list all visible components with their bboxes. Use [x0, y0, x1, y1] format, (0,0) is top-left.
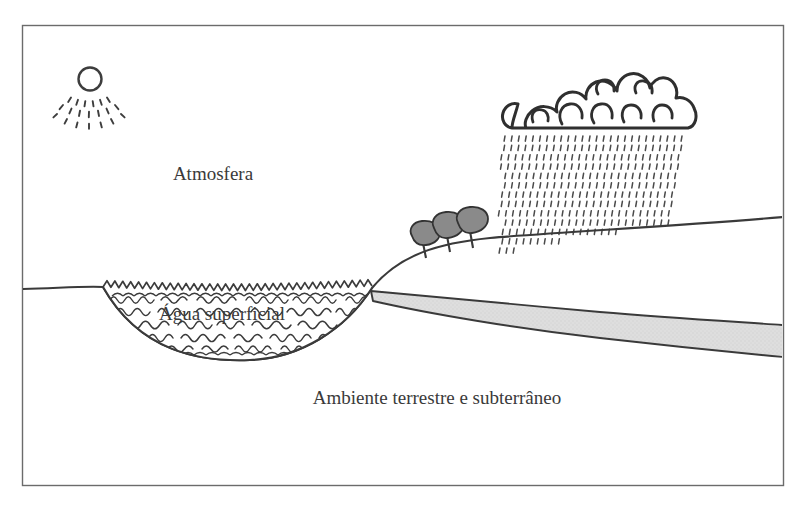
rain-dash — [589, 183, 590, 188]
rain-dash — [629, 201, 630, 206]
label-atmosphere: Atmosfera — [173, 163, 254, 184]
rain-dash — [562, 220, 563, 225]
rain-dash — [583, 220, 584, 225]
rain-dash — [668, 220, 669, 225]
rain-dash — [569, 211, 570, 216]
rain-dash — [540, 173, 541, 178]
rain-dash — [675, 173, 676, 178]
rain-dash — [529, 155, 530, 160]
rain-dash — [654, 220, 655, 225]
rain-dash — [520, 211, 521, 216]
rain-dash — [596, 145, 597, 150]
rain-dash — [513, 211, 514, 216]
rain-dash — [590, 220, 591, 225]
rain-dash — [533, 183, 534, 188]
rain-dash — [551, 239, 552, 244]
rain-dash — [569, 173, 570, 178]
rain-dash — [522, 164, 523, 169]
rain-dash — [519, 173, 520, 178]
rain-dash — [668, 211, 669, 216]
rain-dash — [531, 229, 532, 234]
rain-dash — [667, 183, 668, 188]
rain-dash — [501, 164, 502, 169]
rain-dash — [569, 220, 570, 225]
rain-dash — [587, 192, 588, 197]
rain-dash — [543, 164, 544, 169]
rain-dash — [670, 164, 671, 169]
rain-dash — [568, 183, 569, 188]
rain-dash — [541, 220, 542, 225]
rain-dash — [661, 211, 662, 216]
rain-dash — [624, 145, 625, 150]
rain-dash — [607, 164, 608, 169]
rain-dash — [515, 164, 516, 169]
rain-dash — [607, 155, 608, 160]
rain-dash — [506, 211, 507, 216]
rain-dash — [540, 183, 541, 188]
rain-dash — [506, 248, 507, 253]
rain-dash — [660, 136, 661, 141]
rain-dash — [526, 220, 527, 225]
rain-dash — [605, 211, 606, 216]
rain-dash — [550, 164, 551, 169]
rain-dash — [681, 145, 682, 150]
rain-dash — [508, 201, 509, 206]
rain-dash — [530, 201, 531, 206]
rain-dash — [526, 183, 527, 188]
rain-dash — [607, 201, 608, 206]
rain-dash — [603, 136, 604, 141]
rain-dash — [661, 220, 662, 225]
rain-dash — [663, 164, 664, 169]
rain-dash — [519, 183, 520, 188]
rain-dash — [643, 192, 644, 197]
rain-dash — [674, 183, 675, 188]
rain-dash — [533, 173, 534, 178]
rain-dash — [590, 211, 591, 216]
rain-dash — [501, 155, 502, 160]
rain-dash — [516, 239, 517, 244]
rain-dash — [572, 201, 573, 206]
rain-dash — [586, 155, 587, 160]
rain-dash — [540, 136, 541, 141]
rain-dash — [664, 201, 665, 206]
rain-dash — [643, 201, 644, 206]
rain-dash — [652, 145, 653, 150]
rain-dash — [678, 155, 679, 160]
rain-dash — [622, 201, 623, 206]
rain-dash — [509, 229, 510, 234]
rain-dash — [533, 220, 534, 225]
rain-dash — [604, 220, 605, 225]
rain-dash — [525, 136, 526, 141]
rain-dash — [575, 183, 576, 188]
rain-dash — [657, 201, 658, 206]
rain-dash — [625, 183, 626, 188]
rain-dash — [657, 192, 658, 197]
rain-dash — [547, 173, 548, 178]
page-background — [0, 0, 804, 507]
rain-dash — [636, 192, 637, 197]
rain-dash — [579, 201, 580, 206]
rain-dash — [628, 155, 629, 160]
rain-dash — [551, 155, 552, 160]
rain-dash — [625, 220, 626, 225]
rain-dash — [508, 155, 509, 160]
rain-dash — [597, 173, 598, 178]
rain-dash — [526, 173, 527, 178]
rain-dash — [522, 201, 523, 206]
rain-dash — [541, 211, 542, 216]
rain-dash — [600, 155, 601, 160]
rain-dash — [524, 229, 525, 234]
rain-dash — [536, 155, 537, 160]
rain-dash — [619, 211, 620, 216]
rain-dash — [509, 192, 510, 197]
rain-dash — [660, 145, 661, 150]
rain-dash — [565, 201, 566, 206]
rain-dash — [561, 173, 562, 178]
rain-dash — [547, 183, 548, 188]
rain-dash — [582, 136, 583, 141]
rain-dash — [539, 145, 540, 150]
rain-dash — [504, 183, 505, 188]
rain-dash — [617, 136, 618, 141]
rain-dash — [617, 145, 618, 150]
rain-dash — [632, 183, 633, 188]
